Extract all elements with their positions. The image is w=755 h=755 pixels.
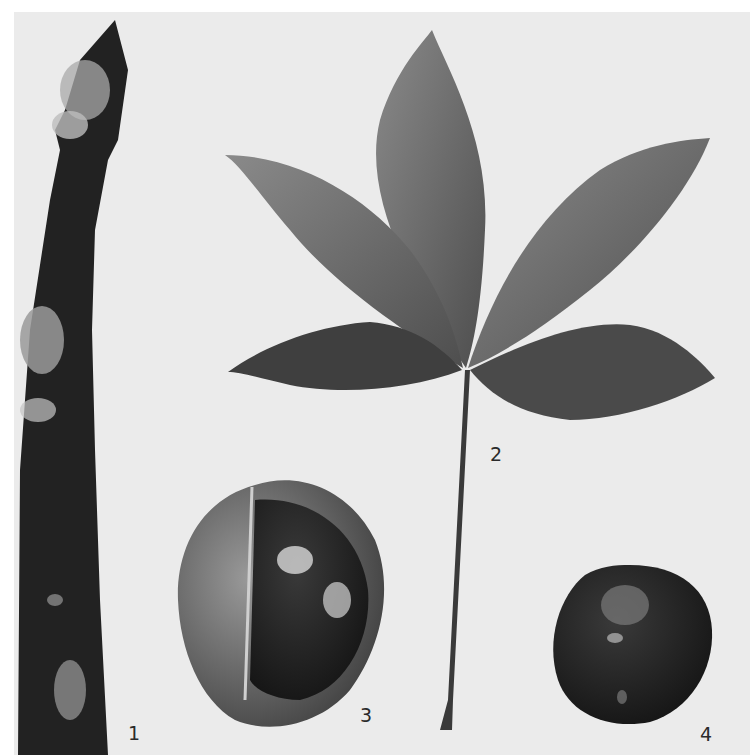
seed-figure-4 [553, 565, 712, 724]
figure-label-2: 2 [490, 445, 502, 464]
twig-figure-1 [18, 20, 128, 755]
fruit-husk-figure-3 [178, 480, 384, 727]
figure-label-1: 1 [128, 724, 140, 743]
botanical-illustration [0, 0, 755, 755]
figure-label-3: 3 [360, 706, 372, 725]
figure-label-4: 4 [700, 725, 712, 744]
